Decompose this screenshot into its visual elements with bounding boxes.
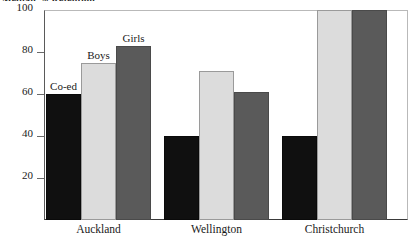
bar-christchurch-coed xyxy=(282,136,317,220)
bar-group xyxy=(282,10,387,220)
y-axis-tick-label: 100 xyxy=(17,2,34,13)
y-axis: 10080604020 xyxy=(0,0,44,237)
bar-wellington-coed xyxy=(164,136,199,220)
y-axis-tick-label: 60 xyxy=(22,86,33,97)
bar-wellington-boys xyxy=(199,71,234,220)
y-axis-tick-mark xyxy=(37,178,44,179)
y-axis-tick-mark xyxy=(37,94,44,95)
bar-auckland-boys xyxy=(81,63,116,221)
y-axis-tick-label: 20 xyxy=(22,170,33,181)
bar-chart: Median % Retention 10080604020 Co-edBoys… xyxy=(0,0,420,237)
y-axis-tick-mark xyxy=(37,136,44,137)
x-axis-label-auckland: Auckland xyxy=(49,222,149,236)
y-axis-tick-mark xyxy=(37,52,44,53)
bar-auckland-girls xyxy=(116,46,151,220)
bar-auckland-coed xyxy=(46,94,81,220)
y-axis-tick-label: 80 xyxy=(22,44,33,55)
x-axis-label-wellington: Wellington xyxy=(167,222,267,236)
bar-wellington-girls xyxy=(234,92,269,220)
x-axis-label-christchurch: Christchurch xyxy=(285,222,385,236)
bar-group xyxy=(164,10,269,220)
y-axis-tick-label: 40 xyxy=(22,128,33,139)
bar-christchurch-girls xyxy=(352,10,387,220)
bars-layer: Co-edBoysGirls xyxy=(44,10,408,220)
x-axis-labels: AucklandWellingtonChristchurch xyxy=(44,222,408,237)
bar-christchurch-boys xyxy=(317,10,352,220)
bar-group xyxy=(46,10,151,220)
